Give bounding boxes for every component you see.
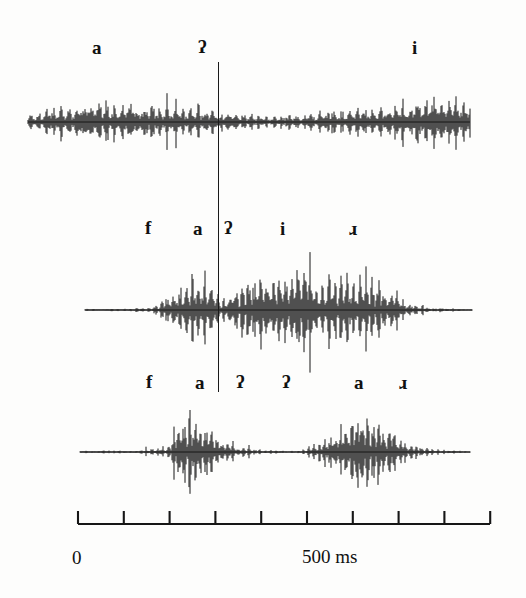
waveform-panel-middle: [0, 248, 526, 374]
phoneme-label-bottom-5: ɹ: [399, 373, 407, 392]
phoneme-label-middle-4: ɹ: [349, 219, 357, 238]
waveform-trace-top: [0, 60, 526, 190]
axis-tick-label-500: 500 ms: [302, 547, 357, 566]
phoneme-label-bottom-0: f: [146, 372, 152, 391]
phoneme-label-bottom-4: a: [354, 373, 364, 392]
phoneme-label-bottom-3: ʔ: [282, 372, 290, 391]
phoneme-label-bottom-2: ʔ: [236, 372, 244, 391]
waveform-trace-middle: [0, 248, 526, 374]
phoneme-label-bottom-1: a: [195, 373, 205, 392]
phoneme-label-middle-1: a: [193, 219, 203, 238]
alignment-cursor-line: [218, 62, 219, 392]
phoneme-label-middle-2: ʔ: [224, 218, 232, 237]
axis-tick-label-0: 0: [72, 548, 82, 567]
phoneme-label-middle-0: f: [145, 218, 151, 237]
waveform-panel-bottom: [0, 400, 526, 504]
speech-waveform-figure: a ʔ i f a ʔ i ɹ f a ʔ ʔ a ɹ 0 500 ms: [0, 0, 526, 598]
waveform-trace-bottom: [0, 400, 526, 504]
waveform-panel-top: [0, 60, 526, 190]
phoneme-label-top-2: i: [412, 38, 417, 57]
phoneme-label-top-0: a: [92, 38, 102, 57]
time-axis-ruler: [0, 500, 526, 550]
phoneme-label-middle-3: i: [280, 219, 285, 238]
time-axis: [0, 500, 526, 550]
phoneme-label-top-1: ʔ: [198, 37, 206, 56]
